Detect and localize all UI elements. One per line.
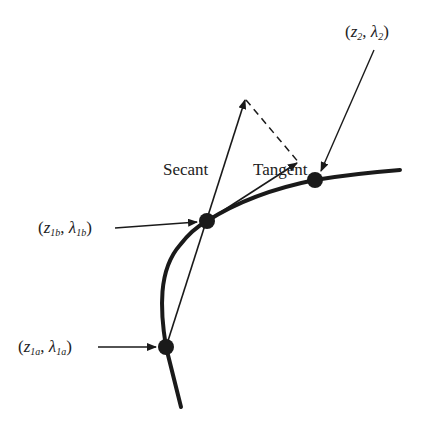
subscript: 1b xyxy=(50,227,60,238)
tangent-label: Tangent xyxy=(253,160,308,180)
subscript: 2 xyxy=(378,31,383,42)
point-label-p2: (z2, λ2) xyxy=(345,22,389,42)
point-p1b xyxy=(199,213,215,229)
point-p1a xyxy=(158,339,174,355)
dashed-connector xyxy=(246,100,300,164)
curve xyxy=(162,170,400,407)
point-p2 xyxy=(307,172,323,188)
subscript: 1a xyxy=(56,346,66,357)
diagram-canvas xyxy=(0,0,425,426)
secant-label: Secant xyxy=(163,160,208,180)
point-label-p1b: (z1b, λ1b) xyxy=(38,218,92,238)
subscript: 1a xyxy=(30,346,40,357)
point-label-p1a: (z1a, λ1a) xyxy=(18,337,72,357)
pointer-arrow-p2 xyxy=(321,50,374,171)
pointer-arrow-p1b xyxy=(115,222,197,228)
subscript: 1b xyxy=(76,227,86,238)
subscript: 2 xyxy=(357,31,362,42)
